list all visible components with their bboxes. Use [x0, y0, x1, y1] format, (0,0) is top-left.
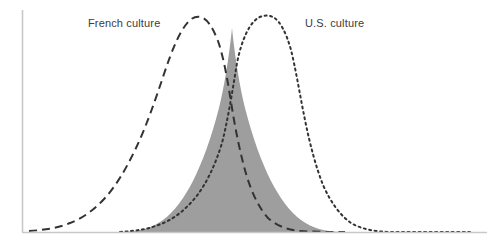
- chart-figure: French culture U.S. culture: [0, 0, 494, 244]
- distribution-overlap-chart: [0, 0, 494, 244]
- overlap-shaded-region: [120, 28, 344, 232]
- french-culture-label: French culture: [88, 17, 160, 30]
- us-culture-label: U.S. culture: [305, 17, 364, 30]
